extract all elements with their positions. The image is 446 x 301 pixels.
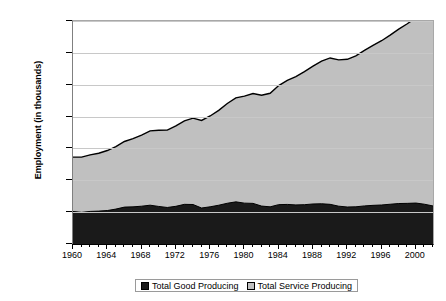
x-axis-minor-tick [398, 244, 399, 247]
x-axis-minor-tick [98, 244, 99, 247]
x-axis-minor-tick [158, 244, 159, 247]
x-axis-minor-tick [89, 244, 90, 247]
x-axis-tick-label: 2000 [395, 250, 435, 260]
legend-label-goods: Total Good Producing [152, 281, 239, 291]
area-total-good-producing [73, 202, 433, 244]
x-axis-minor-tick [252, 244, 253, 247]
x-axis-minor-tick [226, 244, 227, 247]
x-axis-minor-tick [303, 244, 304, 247]
gridline [73, 21, 433, 22]
x-axis-major-tick [381, 244, 382, 249]
x-axis-minor-tick [406, 244, 407, 247]
x-axis-major-tick [175, 244, 176, 249]
plot-area [72, 20, 434, 245]
x-axis-minor-tick [235, 244, 236, 247]
x-axis-minor-tick [183, 244, 184, 247]
x-axis-minor-tick [321, 244, 322, 247]
plot-inner [73, 21, 433, 244]
x-axis-minor-tick [286, 244, 287, 247]
legend-swatch-goods [141, 282, 149, 290]
x-axis-major-tick [346, 244, 347, 249]
x-axis-minor-tick [166, 244, 167, 247]
legend-item-goods: Total Good Producing [141, 281, 239, 291]
x-axis-minor-tick [295, 244, 296, 247]
legend-swatch-services [247, 282, 255, 290]
x-axis-major-tick [312, 244, 313, 249]
gridline [73, 85, 433, 86]
stacked-area-chart: Employment (in thousands) 020,00040,0006… [0, 0, 446, 301]
gridline [73, 117, 433, 118]
x-axis-minor-tick [389, 244, 390, 247]
y-axis-title: Employment (in thousands) [33, 20, 43, 220]
x-axis-major-tick [72, 244, 73, 249]
x-axis-major-tick [209, 244, 210, 249]
legend-item-services: Total Service Producing [247, 281, 353, 291]
x-axis-minor-tick [261, 244, 262, 247]
legend-label-services: Total Service Producing [258, 281, 353, 291]
x-axis-minor-tick [123, 244, 124, 247]
x-axis-minor-tick [81, 244, 82, 247]
gridline [73, 212, 433, 213]
x-axis-minor-tick [192, 244, 193, 247]
x-axis-minor-tick [329, 244, 330, 247]
chart-legend: Total Good Producing Total Service Produ… [135, 279, 358, 292]
x-axis-minor-tick [201, 244, 202, 247]
x-axis-major-tick [415, 244, 416, 249]
x-axis-minor-tick [269, 244, 270, 247]
x-axis-minor-tick [363, 244, 364, 247]
x-axis-major-tick [278, 244, 279, 249]
x-axis-major-tick [106, 244, 107, 249]
x-axis-major-tick [243, 244, 244, 249]
x-axis-minor-tick [432, 244, 433, 247]
x-axis-minor-tick [218, 244, 219, 247]
gridline [73, 53, 433, 54]
x-axis-major-tick [141, 244, 142, 249]
gridline [73, 148, 433, 149]
x-axis-minor-tick [372, 244, 373, 247]
x-axis-minor-tick [355, 244, 356, 247]
x-axis-minor-tick [423, 244, 424, 247]
x-axis-minor-tick [149, 244, 150, 247]
area-series-svg [73, 21, 433, 244]
x-axis-minor-tick [132, 244, 133, 247]
x-axis-minor-tick [115, 244, 116, 247]
x-axis-minor-tick [338, 244, 339, 247]
gridline [73, 180, 433, 181]
